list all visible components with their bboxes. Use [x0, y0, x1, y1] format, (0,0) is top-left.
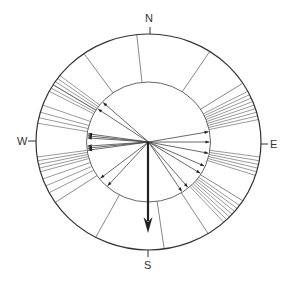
bundle-line [208, 159, 257, 172]
sector-divider-line [157, 201, 164, 249]
vector-arrowhead-icon [98, 109, 102, 113]
bundle-line [193, 184, 229, 217]
vector-line [88, 142, 149, 146]
sector-divider-line [182, 51, 210, 91]
mean-vector-arrow [144, 142, 153, 233]
bundle-line [43, 163, 90, 179]
sector-divider-line [84, 54, 113, 93]
vector-line [103, 103, 148, 142]
sector-divider-line [55, 176, 97, 203]
bundle-line [190, 187, 224, 223]
bundle-line [207, 161, 255, 176]
sector-divider-line [181, 193, 208, 234]
bundle-line [38, 123, 88, 131]
east-label: E [270, 139, 277, 150]
vector-arrowhead-icon [178, 187, 182, 191]
west-label: W [17, 136, 27, 147]
vector-arrowhead-icon [196, 170, 200, 173]
vector-line [88, 134, 148, 142]
vector-arrowhead-icon [206, 140, 210, 143]
vector-line [108, 142, 149, 186]
north-label: N [145, 13, 153, 24]
vector-line [149, 132, 209, 142]
bundle-line [40, 159, 89, 172]
bundle-line [55, 82, 97, 109]
vector-arrowhead-icon [88, 144, 92, 147]
vector-arrowhead-icon [204, 131, 208, 134]
bundle-line [209, 120, 258, 130]
bundle-line [209, 116, 258, 128]
bundle-line [208, 112, 257, 125]
bundle-line [196, 181, 235, 212]
south-label: S [144, 260, 151, 271]
vector-arrowhead-icon [100, 175, 104, 179]
vector-arrowhead-icon [200, 163, 204, 166]
vector-line [149, 142, 188, 187]
orientation-rose-diagram [0, 0, 291, 283]
vector-line [98, 109, 149, 142]
vector-arrowhead-icon [204, 151, 208, 154]
bundle-line [199, 177, 240, 205]
sector-divider-line [96, 195, 120, 237]
bundle-line [195, 182, 233, 214]
bundle-line [39, 157, 88, 169]
bundle-line [209, 157, 258, 169]
sector-divider-line [137, 35, 142, 83]
bundle-line [49, 91, 94, 114]
sector-divider-line [200, 83, 242, 109]
bundle-line [207, 105, 254, 121]
bundle-line [43, 105, 90, 121]
bundle-line [192, 185, 227, 220]
